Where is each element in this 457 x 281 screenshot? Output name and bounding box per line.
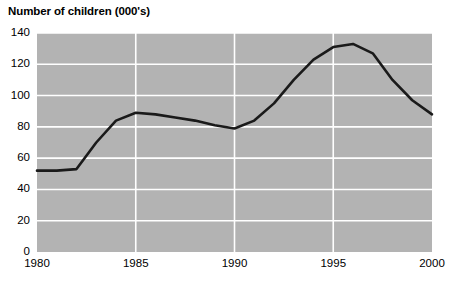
y-tick-100: 100 (2, 89, 30, 101)
x-tick-1980: 1980 (14, 257, 60, 269)
chart-svg (0, 0, 457, 281)
x-tick-2000: 2000 (409, 257, 455, 269)
x-tick-1995: 1995 (310, 257, 356, 269)
x-tick-1990: 1990 (212, 257, 258, 269)
y-tick-140: 140 (2, 26, 30, 38)
y-tick-40: 40 (2, 182, 30, 194)
y-tick-0: 0 (2, 245, 30, 257)
plot-area: 140120100806040200 19801985199019952000 (0, 0, 457, 281)
x-tick-1985: 1985 (113, 257, 159, 269)
chart-figure: Number of children (000's) 1401201008060… (0, 0, 457, 281)
y-tick-20: 20 (2, 214, 30, 226)
y-tick-80: 80 (2, 120, 30, 132)
y-tick-60: 60 (2, 151, 30, 163)
y-tick-120: 120 (2, 57, 30, 69)
